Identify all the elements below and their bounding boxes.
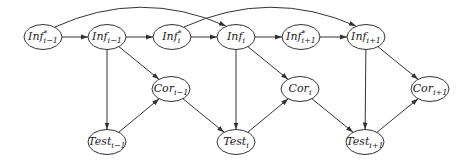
edge-test_ip1-to-cor_ip1 [377, 99, 418, 133]
node-infstar_i: Inf*i [153, 25, 191, 50]
node-label: Inf*i [161, 29, 182, 45]
edge-inf_im1-to-cor_im1 [119, 47, 159, 80]
edge-inf_ip1-to-test_ip1 [365, 49, 366, 129]
edge-test_im1-to-cor_im1 [119, 99, 159, 132]
node-test_i: Testi [217, 130, 255, 155]
node-label: Testi [223, 135, 249, 150]
node-label: Cori [289, 82, 312, 97]
node-test_im1: Testi−1 [88, 130, 126, 155]
node-cor_i: Cori [281, 77, 319, 102]
node-cor_ip1: Cori+1 [411, 77, 449, 102]
node-inf_im1: Infi−1 [88, 25, 126, 50]
edge-infstar_im1-to-inf_i [55, 7, 226, 27]
node-infstar_im1: Inf*i−1 [24, 25, 62, 50]
edge-cor_im1-to-test_i [183, 99, 224, 133]
bayesian-network-diagram: Inf*i−1Infi−1Inf*iInfiInf*i+1Infi+1Cori−… [0, 0, 476, 166]
edge-inf_ip1-to-cor_ip1 [378, 47, 418, 80]
edge-inf_i-to-cor_i [248, 47, 288, 80]
node-cor_im1: Cori−1 [152, 77, 190, 102]
edge-test_i-to-cor_i [248, 99, 288, 132]
node-inf_ip1: Infi+1 [347, 25, 385, 50]
node-infstar_ip1: Inf*i+1 [282, 25, 320, 50]
node-inf_i: Infi [217, 25, 255, 50]
edge-infstar_i-to-inf_ip1 [184, 7, 356, 27]
edge-cor_i-to-test_ip1 [312, 99, 353, 133]
node-test_ip1: Testi+1 [346, 130, 384, 155]
